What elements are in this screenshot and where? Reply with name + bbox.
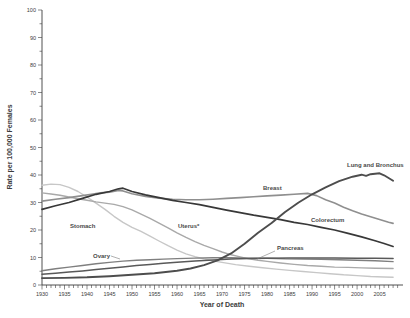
x-tick-label: 2005 bbox=[373, 291, 385, 297]
tick-labels: 1930193519401945195019551960196519701975… bbox=[27, 7, 386, 297]
x-tick-label: 1970 bbox=[216, 291, 228, 297]
x-tick-label: 1965 bbox=[193, 291, 205, 297]
series-label-leader-ovary bbox=[111, 256, 120, 259]
y-tick-label: 40 bbox=[30, 172, 36, 178]
y-tick-label: 80 bbox=[30, 62, 36, 68]
y-tick-label: 10 bbox=[30, 255, 36, 261]
series-label-lung-and-bronchus: Lung and Bronchus bbox=[347, 162, 404, 168]
x-tick-label: 1995 bbox=[328, 291, 340, 297]
x-tick-label: 1940 bbox=[81, 291, 93, 297]
axes bbox=[42, 10, 403, 285]
series-label-pancreas: Pancreas bbox=[277, 245, 304, 251]
x-tick-label: 1990 bbox=[306, 291, 318, 297]
y-tick-label: 0 bbox=[33, 282, 36, 288]
x-tick-label: 1955 bbox=[148, 291, 160, 297]
y-tick-label: 60 bbox=[30, 117, 36, 123]
line-chart-canvas: 1930193519401945195019551960196519701975… bbox=[0, 0, 410, 318]
y-tick-label: 20 bbox=[30, 227, 36, 233]
y-tick-label: 50 bbox=[30, 145, 36, 151]
y-tick-label: 30 bbox=[30, 200, 36, 206]
x-tick-label: 1960 bbox=[171, 291, 183, 297]
x-axis-title: Year of Death bbox=[200, 301, 245, 308]
series-label-ovary: Ovary bbox=[93, 253, 111, 259]
x-tick-label: 2000 bbox=[351, 291, 363, 297]
axis-ticks bbox=[38, 10, 398, 290]
x-tick-label: 1935 bbox=[58, 291, 70, 297]
x-tick-label: 1930 bbox=[36, 291, 48, 297]
series-label-colorectum: Colorectum bbox=[311, 217, 344, 223]
axis-lines bbox=[42, 10, 403, 285]
x-tick-label: 1980 bbox=[261, 291, 273, 297]
cancer-death-rates-chart: Rate per 100,000 Females 193019351940194… bbox=[0, 0, 410, 318]
series-label-stomach: Stomach bbox=[70, 223, 96, 229]
x-tick-label: 1945 bbox=[103, 291, 115, 297]
y-tick-label: 100 bbox=[27, 7, 36, 13]
series-label-breast: Breast bbox=[263, 185, 282, 191]
x-tick-label: 1950 bbox=[126, 291, 138, 297]
y-tick-label: 70 bbox=[30, 90, 36, 96]
x-tick-label: 1985 bbox=[283, 291, 295, 297]
y-tick-label: 90 bbox=[30, 35, 36, 41]
x-tick-label: 1975 bbox=[238, 291, 250, 297]
series-label-uterus: Uterus* bbox=[178, 223, 200, 229]
